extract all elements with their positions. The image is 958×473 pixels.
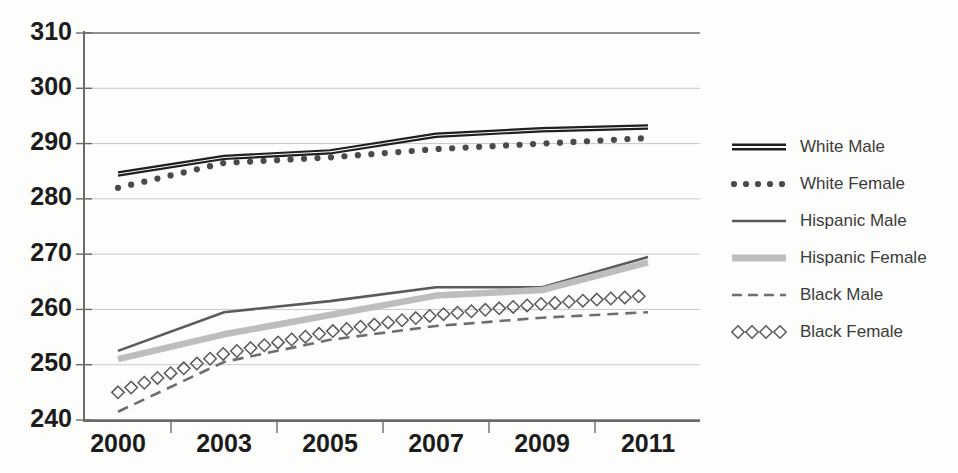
diamonds-marker [730,322,788,342]
series-diamond-marker [299,330,311,342]
legend-label: Black Male [800,285,883,305]
legend-item[interactable]: White Male [730,128,958,165]
series-dot [624,136,630,142]
y-tick-label: 290 [30,127,72,155]
series-black-male [118,312,648,412]
series-diamond-marker [340,323,352,335]
series-dot [489,143,495,149]
thick-light-marker [730,248,788,268]
series-dot [584,138,590,144]
series-dot [597,137,603,143]
series-dot [449,145,455,151]
series-diamond-marker [327,325,339,337]
x-tick-label: 2007 [408,429,464,457]
legend-item[interactable]: Black Female [730,313,958,350]
legend-item[interactable]: White Female [730,165,958,202]
x-axis-tick-labels: 200020032005200720092011 [90,429,675,457]
series-dot [409,148,415,154]
series-diamond-marker [354,321,366,333]
series-dot [274,157,280,163]
series-diamond-marker [138,377,150,389]
legend-label: White Female [800,174,905,194]
series-dot [260,158,266,164]
series-dot [167,172,173,178]
series-dot [154,175,160,181]
series-diamond-marker [619,291,631,303]
series-dot [530,141,536,147]
legend-item[interactable]: Hispanic Male [730,202,958,239]
series-dot [128,182,134,188]
series-hispanic-female [118,262,648,359]
series-dot [220,160,226,166]
series-dot [436,146,442,152]
solid-marker [730,211,788,231]
dotted-marker [730,174,788,194]
series-diamond-marker [285,333,297,345]
series-dot [543,140,549,146]
series-diamond-marker [178,362,190,374]
series-diamond-marker [244,342,256,354]
series-dot [341,153,347,159]
series-diamond-marker [368,318,380,330]
series-dot [181,169,187,175]
series-dot [570,139,576,145]
series-dot [247,158,253,164]
series-dot [395,149,401,155]
series-dot [557,140,563,146]
series-dot [476,144,482,150]
series-dot [368,151,374,157]
series-dot [314,155,320,161]
series-diamond-marker [382,316,394,328]
series-dot [611,137,617,143]
y-tick-label: 300 [30,72,72,100]
y-axis-tick-labels: 310300290280270260250240 [30,17,92,432]
series-diamond-marker [258,339,270,351]
legend-item[interactable]: Black Male [730,276,958,313]
series-diamond-marker [204,353,216,365]
series-diamond-marker [633,290,645,302]
series-dot [141,179,147,185]
series-dot [115,185,121,191]
x-tick-label: 2005 [302,429,358,457]
legend-label: Hispanic Female [800,248,927,268]
y-tick-label: 310 [30,17,72,45]
series-dot [516,142,522,148]
double-solid-marker [730,137,788,157]
series-diamond-marker [605,292,617,304]
series-diamond-marker [423,310,435,322]
series-diamond-marker [493,302,505,314]
y-tick-label: 240 [30,404,72,432]
series-diamond-marker [191,357,203,369]
series-diamond-marker [272,336,284,348]
series-line [118,262,648,359]
chart-legend: White MaleWhite FemaleHispanic MaleHispa… [730,128,958,350]
line-chart: 310300290280270260250240 200020032005200… [0,0,720,473]
legend-label: Black Female [800,322,903,342]
series-dot [207,163,213,169]
series-dot [355,152,361,158]
legend-label: Hispanic Male [800,211,907,231]
series-diamond-marker [507,301,519,313]
series-dot [382,150,388,156]
series-diamond-marker [591,293,603,305]
x-tick-label: 2003 [196,429,252,457]
series-dot [503,142,509,148]
series-diamond-marker [465,305,477,317]
legend-item[interactable]: Hispanic Female [730,239,958,276]
data-series-group [112,125,648,411]
chart-page: 310300290280270260250240 200020032005200… [0,0,958,473]
series-dot [638,135,644,141]
series-diamond-marker [112,386,124,398]
series-diamond-marker [231,345,243,357]
y-tick-label: 270 [30,238,72,266]
series-diamond-marker [217,348,229,360]
series-dot [287,156,293,162]
series-dot [194,166,200,172]
x-tick-label: 2000 [90,429,146,457]
y-tick-label: 260 [30,293,72,321]
series-diamond-marker [577,295,589,307]
series-diamond-marker [410,312,422,324]
series-diamond-marker [451,307,463,319]
y-tick-label: 280 [30,182,72,210]
series-dot [463,144,469,150]
